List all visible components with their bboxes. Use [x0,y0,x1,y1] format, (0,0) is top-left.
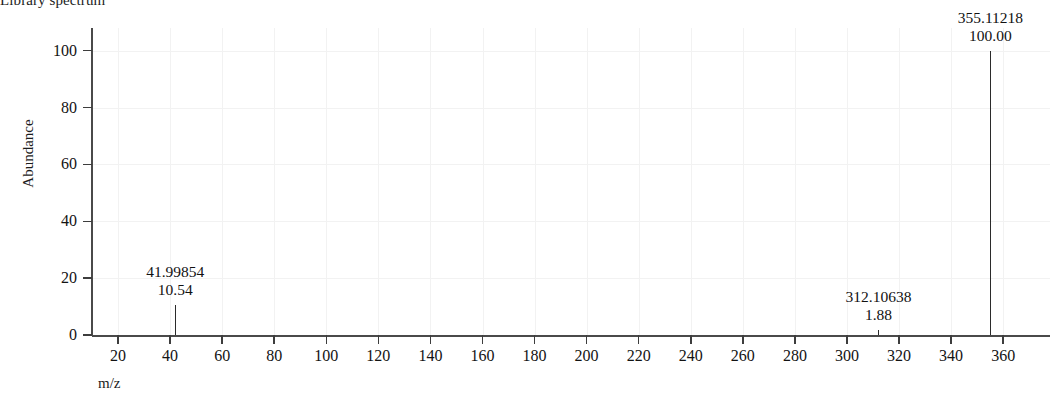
x-axis-tick-label: 340 [921,348,981,364]
x-axis-tick-label: 140 [400,348,460,364]
x-axis-tick-label: 160 [452,348,512,364]
x-axis-tick-label: 180 [505,348,565,364]
peak-mz-value: 355.11218 [915,9,1056,27]
x-axis-tick-label: 280 [765,348,825,364]
y-axis-tick-label: 60 [31,156,77,172]
x-axis-tick [117,335,119,344]
x-axis-title: m/z [98,375,121,392]
x-axis-tick [846,335,848,344]
y-axis-tick-label: 40 [31,213,77,229]
x-axis-tick-label: 80 [244,348,304,364]
peak-mz-value: 312.10638 [803,288,953,306]
gridline-horizontal [92,221,1050,222]
y-axis-tick [83,221,92,223]
y-axis-tick-label: 80 [31,100,77,116]
x-axis-tick [794,335,796,344]
peak-mz-value: 41.99854 [100,263,250,281]
y-axis-tick-label: 20 [31,270,77,286]
gridline-horizontal [92,51,1050,52]
mass-spectrum-figure: Library spectrum Abundance m/z 020406080… [0,0,1056,407]
x-axis-tick-label: 240 [661,348,721,364]
gridline-vertical [639,28,640,335]
x-axis-tick [742,335,744,344]
x-axis-tick [221,335,223,344]
peak-label: 355.11218100.00 [915,9,1056,45]
x-axis-tick [534,335,536,344]
x-axis-tick-label: 360 [973,348,1033,364]
x-axis-tick-label: 260 [713,348,773,364]
x-axis-tick [430,335,432,344]
peak-label: 312.106381.88 [803,288,953,324]
x-axis-tick [586,335,588,344]
x-axis-tick-label: 100 [296,348,356,364]
x-axis-tick [273,335,275,344]
x-axis-tick-label: 220 [609,348,669,364]
gridline-horizontal [92,164,1050,165]
y-axis-tick-label: 0 [31,327,77,343]
peak-abundance-value: 1.88 [803,306,953,324]
y-axis-line [91,28,93,336]
y-axis-tick [83,277,92,279]
x-axis-tick-label: 200 [557,348,617,364]
gridline-vertical [795,28,796,335]
x-axis-tick-label: 300 [817,348,877,364]
gridline-vertical [1003,28,1004,335]
gridline-vertical [691,28,692,335]
x-axis-tick [482,335,484,344]
peak-abundance-value: 100.00 [915,27,1056,45]
y-axis-tick [83,107,92,109]
gridline-vertical [535,28,536,335]
x-axis-tick-label: 60 [192,348,252,364]
x-axis-tick [1002,335,1004,344]
x-axis-tick [169,335,171,344]
x-axis-line [92,335,1050,337]
x-axis-tick-label: 120 [348,348,408,364]
gridline-horizontal [92,108,1050,109]
y-axis-tick [83,50,92,52]
x-axis-tick [950,335,952,344]
x-axis-tick-label: 20 [88,348,148,364]
gridline-vertical [587,28,588,335]
page-title: Library spectrum [0,0,105,9]
y-axis-tick [83,334,92,336]
peak-label: 41.9985410.54 [100,263,250,299]
x-axis-tick-label: 40 [140,348,200,364]
x-axis-tick [898,335,900,344]
y-axis-tick-label: 100 [31,43,77,59]
gridline-vertical [326,28,327,335]
gridline-vertical [483,28,484,335]
x-axis-tick [690,335,692,344]
spectrum-peak [990,51,991,335]
x-axis-tick [378,335,380,344]
x-axis-tick-label: 320 [869,348,929,364]
x-axis-tick [638,335,640,344]
gridline-vertical [378,28,379,335]
y-axis-tick [83,164,92,166]
gridline-vertical [743,28,744,335]
x-axis-tick [326,335,328,344]
gridline-vertical [430,28,431,335]
spectrum-peak [175,305,176,335]
gridline-vertical [274,28,275,335]
peak-abundance-value: 10.54 [100,281,250,299]
